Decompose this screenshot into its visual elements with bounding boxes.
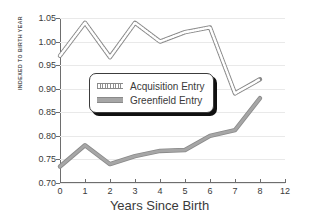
- x-tick-label: 3: [132, 186, 137, 196]
- x-tick-label: 7: [232, 186, 237, 196]
- legend-item-acquisition: Acquisition Entry: [97, 79, 204, 93]
- legend-item-greenfield: Greenfield Entry: [97, 93, 204, 107]
- x-axis-title: Years Since Birth: [0, 198, 319, 213]
- x-tick-label: 8: [257, 186, 262, 196]
- gridline: [60, 183, 285, 184]
- y-tick-label: 0.95: [38, 60, 56, 70]
- x-tick-label: 4: [157, 186, 162, 196]
- y-tick-mark: [56, 183, 60, 184]
- y-tick-label: 0.70: [38, 178, 56, 188]
- x-tick-label: 0: [57, 186, 62, 196]
- solid-line-swatch-icon: [97, 97, 123, 103]
- legend-label: Greenfield Entry: [130, 95, 202, 106]
- y-tick-label: 0.75: [38, 154, 56, 164]
- chart-legend: Acquisition Entry Greenfield Entry: [89, 73, 214, 113]
- y-tick-label: 0.85: [38, 107, 56, 117]
- y-tick-label: 0.80: [38, 131, 56, 141]
- y-tick-label: 1.00: [38, 37, 56, 47]
- x-tick-label: 1: [82, 186, 87, 196]
- x-tick-mark: [285, 179, 286, 183]
- x-tick-label: 6: [207, 186, 212, 196]
- line-chart: INDEXED TO BIRTH YEAR 0.700.750.800.850.…: [0, 0, 319, 222]
- y-tick-label: 1.05: [38, 13, 56, 23]
- dotted-line-swatch-icon: [97, 83, 123, 89]
- legend-label: Acquisition Entry: [130, 81, 204, 92]
- y-tick-label: 0.90: [38, 84, 56, 94]
- y-axis-title: INDEXED TO BIRTH YEAR: [17, 0, 23, 118]
- x-tick-label: 2: [107, 186, 112, 196]
- x-tick-label: 5: [182, 186, 187, 196]
- x-tick-label: 12: [280, 186, 290, 196]
